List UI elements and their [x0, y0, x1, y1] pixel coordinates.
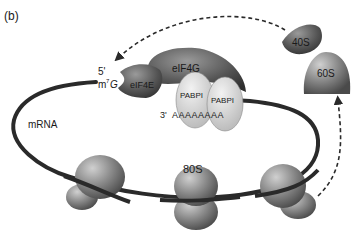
label-3prime: 3' [160, 110, 167, 120]
label-mrna: mRNA [28, 119, 58, 130]
label-5prime: 5' [98, 66, 106, 77]
label-polya: A A A A A A A A [172, 110, 224, 120]
label-40s: 40S [292, 37, 310, 48]
panel-label: (b) [4, 9, 19, 23]
label-80s: 80S [183, 163, 203, 175]
label-pabp-right: PABPI [211, 96, 234, 105]
label-pabp-left: PABPI [180, 91, 203, 100]
ribosome-left [64, 155, 130, 210]
translation-diagram: (b) 80S 40S 60S 5' m 7 G eIF4E eI [0, 0, 360, 248]
ribosome-right [255, 164, 318, 219]
recycling-arrow-right [318, 100, 341, 196]
label-60s: 60S [317, 68, 335, 79]
label-eif4g: eIF4G [172, 63, 200, 74]
label-eif4e: eIF4E [130, 80, 154, 90]
label-cap-g: G [110, 79, 118, 90]
